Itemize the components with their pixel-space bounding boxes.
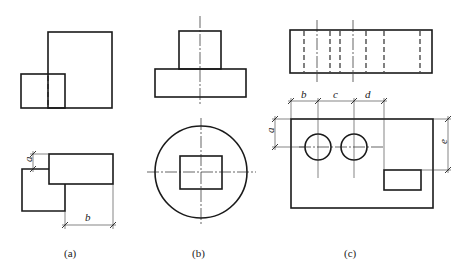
large-block (48, 32, 112, 108)
figure-c-caption: (c) (344, 247, 357, 260)
figure-b-front-view (155, 16, 246, 105)
figure-c: b c d a e (c) (264, 20, 451, 260)
figure-a-caption: (a) (64, 247, 77, 260)
plate-top (291, 119, 433, 208)
figure-b: (b) (147, 16, 256, 260)
dimension-a: a (264, 116, 305, 150)
dimension-label-b: b (85, 211, 91, 223)
lower-block (22, 169, 65, 211)
drawing-canvas: a b (a) (b) (0, 0, 471, 276)
figure-b-top-view (147, 118, 256, 226)
small-block (21, 74, 65, 108)
base-plate (155, 69, 246, 97)
dimension-label-a: a (22, 156, 34, 162)
plate-front (290, 30, 432, 73)
dimension-label-d: d (365, 88, 371, 100)
dimension-label-a: a (264, 127, 276, 133)
dimension-b: b (62, 184, 116, 229)
figure-a-bottom-view: a b (22, 151, 116, 229)
dimension-label-b: b (301, 88, 307, 100)
dimension-label-e: e (437, 139, 449, 144)
figure-a-top-view (21, 32, 112, 108)
dimension-label-c: c (333, 88, 338, 100)
figure-c-front-view (290, 20, 432, 82)
dimension-e: e (421, 116, 451, 173)
figure-b-caption: (b) (192, 247, 205, 260)
figure-a: a b (a) (21, 32, 116, 260)
rect-cutout (384, 170, 421, 190)
upper-block (49, 154, 113, 184)
dimension-chain-bcd: b c d (288, 88, 387, 104)
figure-c-top-view: b c d a e (264, 88, 451, 208)
